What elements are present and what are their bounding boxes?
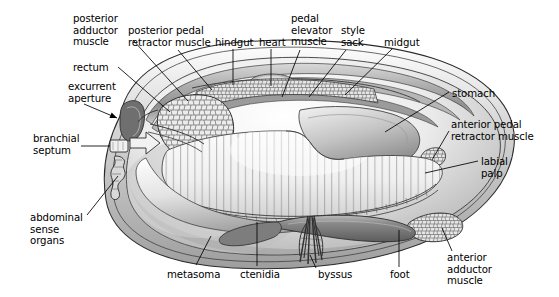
figure-container: posterioradductormuscleposterior pedalre…	[0, 0, 559, 297]
label-line: byssus	[318, 269, 352, 281]
label-hindgut: hindgut	[215, 37, 253, 49]
label-anterior-pedal-retractor-muscle: anterior pedalretractor muscle	[451, 119, 534, 142]
arrowhead-excurrent-aperture	[109, 113, 117, 118]
label-branchial-septum: branchialseptum	[33, 133, 79, 156]
branchial-septum-body	[110, 140, 128, 152]
label-line: sense	[30, 224, 83, 236]
label-line: style	[341, 25, 365, 37]
label-midgut: midgut	[384, 37, 420, 49]
label-anterior-adductor-muscle: anterioradductormuscle	[447, 252, 492, 287]
label-byssus: byssus	[318, 269, 352, 281]
label-line: septum	[33, 145, 79, 157]
label-line: anterior pedal	[451, 119, 534, 131]
label-line: branchial	[33, 133, 79, 145]
label-excurrent-aperture: excurrentaperture	[68, 81, 116, 104]
label-line: hindgut	[215, 37, 253, 49]
label-stomach: stomach	[452, 88, 495, 100]
label-line: muscle	[73, 36, 118, 48]
label-line: organs	[30, 235, 83, 247]
label-line: muscle	[291, 36, 332, 48]
label-posterior-adductor-muscle: posterioradductormuscle	[73, 13, 118, 48]
label-line: muscle	[447, 275, 492, 287]
label-line: ctenidia	[240, 269, 280, 281]
label-line: posterior pedal	[128, 25, 211, 37]
label-line: aperture	[68, 93, 116, 105]
label-line: foot	[390, 269, 410, 281]
label-line: stomach	[452, 88, 495, 100]
label-line: adductor	[73, 25, 118, 37]
label-rectum: rectum	[73, 62, 109, 74]
label-labial-palp: labialpalp	[481, 156, 508, 179]
label-line: anterior	[447, 252, 492, 264]
label-heart: heart	[259, 37, 286, 49]
label-line: retractor muscle	[128, 37, 211, 49]
label-line: heart	[259, 37, 286, 49]
label-line: palp	[481, 168, 508, 180]
label-line: elevator	[291, 25, 332, 37]
label-metasoma: metasoma	[167, 269, 220, 281]
label-line: pedal	[291, 13, 332, 25]
label-style-sack: stylesack	[341, 25, 365, 48]
label-line: midgut	[384, 37, 420, 49]
label-foot: foot	[390, 269, 410, 281]
label-line: metasoma	[167, 269, 220, 281]
label-line: retractor muscle	[451, 131, 534, 143]
label-line: posterior	[73, 13, 118, 25]
label-line: abdominal	[30, 212, 83, 224]
label-ctenidia: ctenidia	[240, 269, 280, 281]
label-line: adductor	[447, 264, 492, 276]
label-pedal-elevator-muscle: pedalelevatormuscle	[291, 13, 332, 48]
label-abdominal-sense-organs: abdominalsenseorgans	[30, 212, 83, 247]
label-posterior-pedal-retractor-muscle: posterior pedalretractor muscle	[128, 25, 211, 48]
label-line: excurrent	[68, 81, 116, 93]
label-line: rectum	[73, 62, 109, 74]
label-line: labial	[481, 156, 508, 168]
leader-arrowheads	[109, 113, 117, 118]
label-line: sack	[341, 37, 365, 49]
